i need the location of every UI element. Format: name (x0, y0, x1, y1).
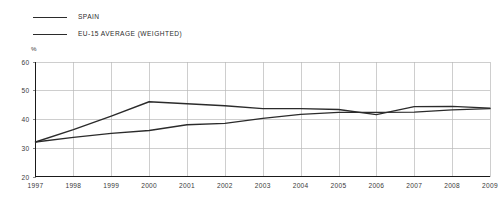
y-tick-label: 40 (22, 116, 30, 123)
y-tick-label: 30 (22, 145, 30, 152)
x-tick-label: 2000 (141, 182, 157, 189)
data-series (36, 102, 491, 142)
x-axis-labels: 1997199819992000200120022003200420052006… (28, 182, 498, 189)
x-tick-label: 1997 (28, 182, 44, 189)
x-tick-label: 1999 (103, 182, 119, 189)
y-axis-labels: 6050403020 (22, 59, 30, 181)
x-tick-label: 2006 (368, 182, 384, 189)
x-tick-label: 2007 (406, 182, 422, 189)
x-tick-label: 2003 (255, 182, 271, 189)
plot-area: 6050403020 19971998199920002001200220032… (0, 0, 504, 203)
series-line-eu15 (36, 109, 491, 142)
y-tick-label: 50 (22, 87, 30, 94)
x-tick-label: 2008 (444, 182, 460, 189)
x-tick-label: 2009 (482, 182, 498, 189)
x-tick-label: 2001 (179, 182, 195, 189)
series-line-spain (36, 102, 491, 142)
y-tick-label: 20 (22, 174, 30, 181)
x-tick-label: 1998 (65, 182, 81, 189)
x-tick-label: 2005 (331, 182, 347, 189)
x-tick-label: 2004 (293, 182, 309, 189)
y-tick-label: 60 (22, 59, 30, 66)
x-tick-label: 2002 (217, 182, 233, 189)
line-chart: SPAIN EU-15 AVERAGE (WEIGHTED) % 6050403… (0, 0, 504, 203)
